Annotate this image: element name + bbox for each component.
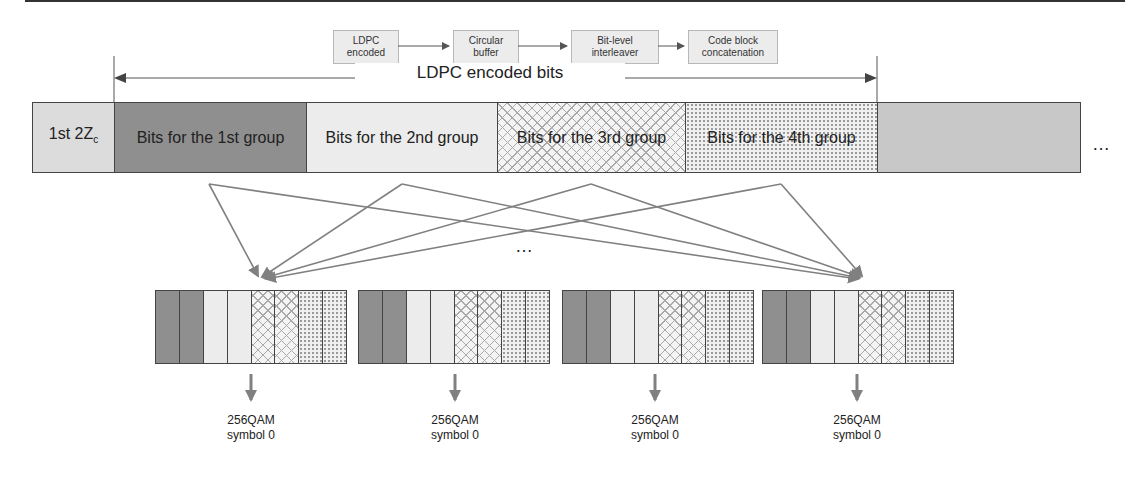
symbol-block-2 <box>358 290 550 364</box>
qam-symbol-label-3: 256QAMsymbol 0 <box>610 413 700 443</box>
segment-group-4: Bits for the 4th group <box>685 102 877 173</box>
segment-label: Bits for the 4th group <box>697 127 867 149</box>
ldpc-encoded-bits-label: LDPC encoded bits <box>355 63 625 83</box>
qam-symbol-label-2: 256QAMsymbol 0 <box>410 413 500 443</box>
segment-group-1: Bits for the 1st group <box>114 102 306 173</box>
symbol-block-4 <box>762 290 954 364</box>
segment-group-3: Bits for the 3rd group <box>497 102 685 173</box>
segment-first-2zc: 1st 2Zc <box>32 102 114 173</box>
segment-label: Bits for the 3rd group <box>507 127 677 149</box>
mapping-arrows <box>209 184 862 279</box>
segment-group-2: Bits for the 2nd group <box>306 102 497 173</box>
qam-symbol-label-4: 256QAMsymbol 0 <box>812 413 902 443</box>
segment-label: Bits for the 2nd group <box>317 127 487 149</box>
segment-remaining <box>877 102 1081 173</box>
down-arrows <box>251 374 857 400</box>
middle-ellipsis: … <box>515 236 535 257</box>
segment-label: Bits for the 1st group <box>126 127 296 149</box>
qam-symbol-label-1: 256QAMsymbol 0 <box>206 413 296 443</box>
symbol-block-1 <box>155 290 347 364</box>
symbol-block-3 <box>562 290 754 364</box>
segment-label: 1st 2Zc <box>49 123 98 151</box>
bar-trailing-ellipsis: … <box>1092 134 1112 155</box>
